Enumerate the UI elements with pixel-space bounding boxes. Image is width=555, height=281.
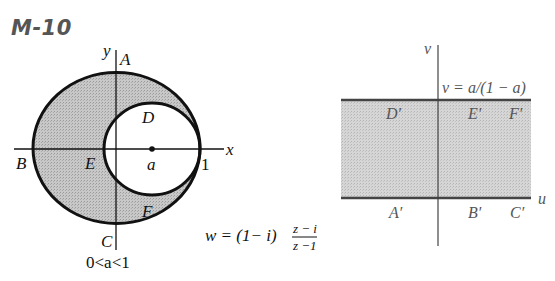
formula-lhs: w = (1− i) (205, 226, 277, 245)
label-D: D (141, 108, 155, 127)
label-A-prime: A′ (388, 204, 403, 221)
label-E: E (84, 154, 96, 173)
label-D-prime: D′ (385, 105, 402, 122)
upper-line-label: v = a/(1 − a) (442, 79, 526, 97)
formula-denominator: z −1 (292, 238, 317, 253)
y-axis-label: y (101, 41, 111, 60)
formula-numerator: z − i (292, 221, 317, 236)
label-B-prime: B′ (468, 204, 482, 221)
conformal-map-diagram: x y A B C D E F a 1 0<a<1 w = (1− i) z −… (0, 0, 555, 281)
label-F: F (141, 202, 153, 221)
point-a-dot (149, 146, 155, 152)
x-axis-label: x (225, 140, 234, 159)
shaded-strip-region (341, 100, 531, 198)
condition-label: 0<a<1 (86, 253, 130, 272)
label-B: B (16, 154, 27, 173)
label-a: a (147, 155, 156, 174)
u-axis-label: u (538, 190, 546, 207)
label-A: A (119, 50, 131, 69)
label-C-prime: C′ (510, 204, 525, 221)
label-C: C (101, 232, 113, 251)
v-axis-label: v (424, 40, 432, 57)
label-F-prime: F′ (508, 105, 523, 122)
label-E-prime: E′ (467, 105, 482, 122)
label-one: 1 (201, 155, 210, 174)
